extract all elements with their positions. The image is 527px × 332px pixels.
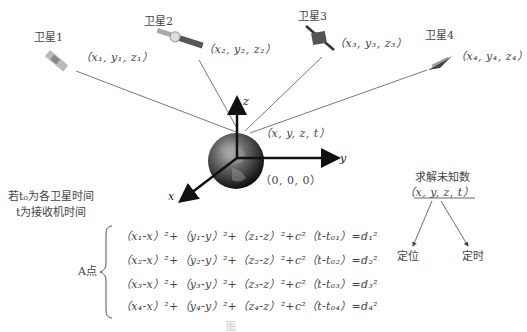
equation-3: （x₃-x）²+（y₃-y）²+（z₃-z）²+c²（t-t₀₃）=d₃² (120, 275, 378, 291)
satellite-1-coord: （x₁, y₁, z₁） (80, 48, 153, 64)
satellite-4-label: 卫星4 (425, 26, 454, 42)
satellite-4-icon (428, 56, 452, 70)
x-axis-label: x (168, 190, 174, 203)
figure-caption: 图 (226, 318, 236, 332)
note-line-1: 若t₀为各卫星时间 (8, 187, 94, 203)
satellite-3-icon (306, 26, 334, 50)
satellite-2-icon (156, 26, 205, 50)
brace (100, 226, 112, 318)
satellite-4-coord: （x₄, y₄, z₄） (455, 47, 527, 63)
y-axis-label: y (340, 152, 346, 165)
solve-positioning: 定位 (397, 247, 419, 263)
equation-4: （x₄-x）²+（y₄-y）²+（z₄-z）²+c²（t-t₀₄）=d₄² (120, 297, 378, 313)
z-axis-label: z (243, 95, 249, 108)
signal-lines (76, 57, 427, 133)
equation-2: （x₂-x）²+（y₂-y）²+（z₂-z）²+c²（t-t₀₂）=d₂² (120, 251, 378, 267)
receiver-coord: （x, y, z, t） (260, 124, 330, 140)
solve-title: 求解未知数 (415, 168, 470, 184)
satellite-1-label: 卫星1 (34, 28, 63, 44)
note-line-2: t为接收机时间 (16, 203, 86, 219)
satellite-2-label: 卫星2 (144, 12, 173, 28)
origin-coord: （0, 0, 0） (260, 171, 321, 187)
equation-1: （x₁-x）²+（y₁-y）²+（z₁-z）²+c²（t-t₀₁）=d₁² (120, 227, 378, 243)
solve-unknowns: （x, y, z, t） (404, 183, 474, 199)
solve-timing: 定时 (462, 247, 484, 263)
system-label: A点 (78, 262, 97, 278)
satellite-2-coord: （x₂, y₂, z₂） (203, 40, 276, 56)
satellite-1-icon (45, 50, 69, 72)
satellite-3-coord: （x₃, y₃, z₃） (334, 34, 407, 50)
satellite-3-label: 卫星3 (298, 7, 327, 23)
